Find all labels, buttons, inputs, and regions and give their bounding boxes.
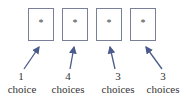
count-label-3: 3	[98, 70, 138, 82]
arrow-3-icon	[110, 47, 115, 69]
count-label-4: 3	[143, 70, 181, 82]
unit-label-1: choice	[0, 83, 47, 95]
arrow-1-icon	[24, 47, 39, 69]
arrow-4-icon	[146, 47, 162, 69]
count-label-2: 4	[48, 70, 88, 82]
unit-label-2: choices	[43, 83, 93, 95]
unit-label-3: choices	[93, 83, 143, 95]
arrow-2-icon	[70, 47, 74, 69]
count-label-1: 1	[1, 70, 41, 82]
unit-label-4: choices	[138, 83, 181, 95]
